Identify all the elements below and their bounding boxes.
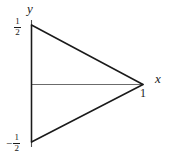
y-axis-label: y xyxy=(27,2,33,15)
fraction-denominator: 2 xyxy=(13,144,20,153)
x-tick-label-one: 1 xyxy=(140,87,146,99)
y-tick-label-negative-half: − 1 2 xyxy=(6,133,20,154)
fraction-denominator: 2 xyxy=(14,28,21,37)
fraction-numerator: 1 xyxy=(13,133,20,142)
math-figure: y x 1 1 2 − 1 2 xyxy=(0,0,171,161)
fraction-stack: 1 2 xyxy=(13,133,20,154)
triangle-upper-edge xyxy=(32,25,144,85)
fraction-stack: 1 2 xyxy=(14,17,21,38)
fraction-sign: − xyxy=(6,138,12,149)
y-tick-label-positive-half: 1 2 xyxy=(13,17,21,38)
triangle-lower-edge xyxy=(32,85,144,143)
x-axis-label: x xyxy=(155,72,161,85)
coordinate-plot xyxy=(0,0,171,161)
fraction-numerator: 1 xyxy=(14,17,21,26)
